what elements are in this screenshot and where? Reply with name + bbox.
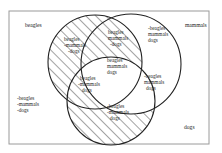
svg-text:-dogs: -dogs [17, 107, 29, 113]
svg-text:dogs: dogs [148, 37, 158, 43]
svg-text:dogs: dogs [107, 69, 117, 75]
set-label-dogs: dogs [184, 124, 195, 130]
svg-text:-dogs: -dogs [110, 41, 122, 47]
set-label-beagles: beagles [25, 22, 42, 28]
set-label-mammals: mammals [185, 22, 207, 28]
svg-text:-dogs: -dogs [68, 48, 80, 54]
venn-diagram: beagles mammals dogs beagles -mammals -d… [0, 0, 222, 153]
svg-text:dogs: dogs [146, 85, 156, 91]
svg-text:dogs: dogs [82, 87, 92, 93]
svg-text:dogs: dogs [110, 115, 120, 121]
